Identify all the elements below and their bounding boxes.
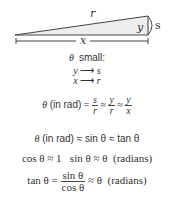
label-r: r [90,7,95,20]
equation-cos-sin: cos θ ≈ 1 sin θ ≈ θ (radians) [0,152,174,164]
equation-theta-sin-tan: θ (in rad) ≈ sin θ ≈ tan θ [0,133,174,144]
label-x: x [80,34,86,47]
triangle-figure [0,0,174,50]
small-angle-diagram: r y s x θ small: y ⟶ s x ⟶ r θ (in rad) … [0,0,174,211]
label-s: s [155,19,161,32]
fraction-sin-over-cos: sin θcos θ [61,170,86,193]
caption-theta-small: θ small: [0,52,174,63]
equation-theta-ratios: θ (in rad) = sr ≈ yr ≈ yx [0,95,174,116]
label-y: y [137,21,143,34]
equation-tan: tan θ = sin θcos θ ≈ θ (radians) [0,170,174,193]
limit-x-to-r: x ⟶ r [0,76,174,86]
fraction-s-over-r: sr [92,95,98,116]
fraction-y-over-x: yx [125,95,131,116]
fraction-y-over-r: yr [108,95,114,116]
